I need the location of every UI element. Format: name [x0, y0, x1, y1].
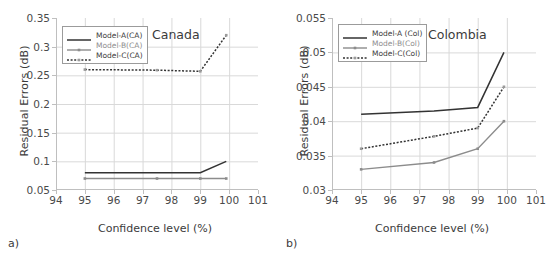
y-tick-mark: [328, 52, 332, 53]
series-marker: [199, 177, 202, 180]
x-tick-mark: [114, 190, 115, 194]
y-tick-mark: [52, 75, 56, 76]
x-tick-label: 95: [354, 194, 367, 206]
series-marker: [199, 70, 202, 73]
y-tick-mark: [52, 133, 56, 134]
y-tick-label: 0.3: [6, 41, 50, 53]
x-tick-mark: [171, 190, 172, 194]
legend-label: Model-C(CA): [96, 51, 143, 60]
x-tick-label: 99: [194, 194, 207, 206]
legend-label: Model-A (Col): [372, 29, 422, 38]
x-tick-label: 101: [248, 194, 268, 206]
legend-item: Model-C(Col): [342, 48, 422, 58]
x-tick-label: 100: [497, 194, 517, 206]
series-marker: [476, 127, 479, 130]
x-tick-mark: [536, 190, 537, 194]
y-tick-label: 0.25: [6, 69, 50, 81]
series-marker: [225, 177, 228, 180]
y-tick-mark: [52, 161, 56, 162]
x-tick-label: 94: [325, 194, 338, 206]
x-tick-mark: [449, 190, 450, 194]
legend-item: Model-A(CA): [66, 30, 143, 40]
x-axis-title-a: Confidence level (%): [40, 222, 270, 235]
panel-b: Residual Errors (dB) Colombia Model-A (C…: [278, 0, 556, 258]
x-tick-label: 99: [471, 194, 484, 206]
legend-label: Model-A(CA): [96, 31, 142, 40]
x-tick-mark: [390, 190, 391, 194]
plot-title-b: Colombia: [428, 27, 487, 42]
series-marker: [84, 177, 87, 180]
series-marker: [503, 120, 506, 123]
y-tick-mark: [328, 87, 332, 88]
legend-swatch-icon: [66, 50, 92, 60]
legend-swatch-icon: [342, 38, 368, 48]
x-tick-mark: [229, 190, 230, 194]
y-tick-mark: [52, 104, 56, 105]
series-marker: [433, 161, 436, 164]
x-tick-mark: [332, 190, 333, 194]
legend-swatch-icon: [66, 40, 92, 50]
series-marker: [360, 147, 363, 150]
legend-swatch-icon: [342, 28, 368, 38]
x-tick-label: 100: [219, 194, 239, 206]
y-tick-label: 0.05: [282, 46, 326, 58]
series-marker: [503, 86, 506, 89]
y-tick-mark: [328, 121, 332, 122]
x-tick-mark: [419, 190, 420, 194]
legend-item: Model-A (Col): [342, 28, 422, 38]
y-tick-label: 0.055: [282, 12, 326, 24]
y-tick-label: 0.15: [6, 127, 50, 139]
x-tick-label: 97: [136, 194, 149, 206]
x-tick-label: 101: [526, 194, 546, 206]
series-marker: [156, 177, 159, 180]
legend-label: Model-C(Col): [372, 49, 420, 58]
legend-label: Model-B(CA): [96, 41, 142, 50]
legend-swatch-icon: [66, 30, 92, 40]
series-line: [85, 161, 226, 172]
y-tick-label: 0.04: [282, 115, 326, 127]
x-tick-mark: [258, 190, 259, 194]
legend-swatch-icon: [342, 48, 368, 58]
x-tick-mark: [200, 190, 201, 194]
x-tick-mark: [361, 190, 362, 194]
y-axis-title-b: Residual Errors (dB): [298, 6, 316, 196]
y-tick-label: 0.35: [6, 12, 50, 24]
y-tick-mark: [52, 47, 56, 48]
x-tick-label: 96: [384, 194, 397, 206]
panel-a: Residual Errors (dB) Canada Model-A(CA)M…: [0, 0, 278, 258]
x-tick-mark: [56, 190, 57, 194]
x-tick-label: 98: [165, 194, 178, 206]
y-tick-label: 0.1: [6, 155, 50, 167]
x-tick-mark: [478, 190, 479, 194]
x-tick-label: 97: [413, 194, 426, 206]
y-tick-mark: [52, 18, 56, 19]
legend-item: Model-B(CA): [66, 40, 143, 50]
legend-b: Model-A (Col)Model-B(Col)Model-C(Col): [338, 24, 427, 62]
y-tick-mark: [328, 156, 332, 157]
panel-caption-b: b): [286, 237, 297, 250]
figure-two-panel-line-charts: Residual Errors (dB) Canada Model-A(CA)M…: [0, 0, 556, 258]
y-tick-mark: [328, 18, 332, 19]
legend-item: Model-C(CA): [66, 50, 143, 60]
x-tick-mark: [143, 190, 144, 194]
series-marker: [433, 135, 436, 138]
x-tick-mark: [85, 190, 86, 194]
legend-a: Model-A(CA)Model-B(CA)Model-C(CA): [62, 26, 148, 64]
x-tick-label: 95: [78, 194, 91, 206]
y-tick-label: 0.045: [282, 81, 326, 93]
series-marker: [156, 69, 159, 72]
series-marker: [225, 34, 228, 37]
x-tick-label: 96: [107, 194, 120, 206]
x-tick-mark: [507, 190, 508, 194]
series-marker: [84, 68, 87, 71]
series-marker: [476, 147, 479, 150]
x-axis-title-b: Confidence level (%): [316, 222, 548, 235]
plot-title-a: Canada: [152, 27, 200, 42]
legend-label: Model-B(Col): [372, 39, 420, 48]
x-tick-label: 98: [442, 194, 455, 206]
y-tick-label: 0.035: [282, 150, 326, 162]
x-tick-label: 94: [49, 194, 62, 206]
legend-item: Model-B(Col): [342, 38, 422, 48]
y-tick-label: 0.03: [282, 184, 326, 196]
y-tick-label: 0.2: [6, 98, 50, 110]
